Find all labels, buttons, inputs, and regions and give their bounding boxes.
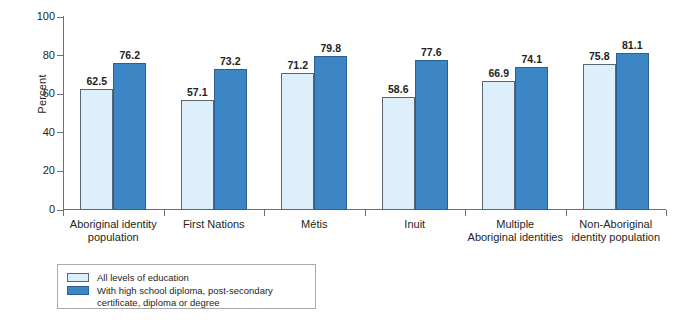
bar-value-label: 79.8 bbox=[304, 43, 358, 54]
bar bbox=[616, 53, 649, 210]
y-axis-tick-label: 0 bbox=[12, 204, 55, 215]
bar-chart-figure: Percent 020406080100 62.576.257.173.271.… bbox=[0, 0, 675, 323]
bar bbox=[482, 81, 515, 210]
legend-label: With high school diploma, post-secondary… bbox=[97, 285, 273, 308]
plot-area: 62.576.257.173.271.279.858.677.666.974.1… bbox=[63, 17, 666, 210]
x-axis-tick bbox=[465, 210, 466, 216]
y-axis-tick-label: 40 bbox=[12, 127, 55, 138]
y-axis-tick-label: 100 bbox=[12, 11, 55, 22]
chart-legend: All levels of education With high school… bbox=[57, 264, 316, 309]
bar-value-label: 73.2 bbox=[203, 56, 257, 67]
x-axis-tick bbox=[164, 210, 165, 216]
y-axis-tick-label: 20 bbox=[12, 165, 55, 176]
bar-value-label: 74.1 bbox=[505, 54, 559, 65]
x-axis-category-label: First Nations bbox=[156, 218, 273, 231]
x-axis-tick bbox=[264, 210, 265, 216]
y-axis-tick-label: 80 bbox=[12, 50, 55, 61]
bar bbox=[281, 73, 314, 210]
legend-item-with-diploma: With high school diploma, post-secondary… bbox=[67, 285, 273, 308]
legend-label: All levels of education bbox=[97, 272, 189, 284]
bar bbox=[314, 56, 347, 210]
bar-value-label: 81.1 bbox=[605, 40, 659, 51]
bar-value-label: 77.6 bbox=[404, 47, 458, 58]
x-axis-category-label: Non-Aboriginalidentity population bbox=[558, 218, 675, 244]
x-axis-category-label: Aboriginal identitypopulation bbox=[55, 218, 172, 244]
bar-value-label: 76.2 bbox=[103, 50, 157, 61]
x-axis-tick bbox=[365, 210, 366, 216]
legend-swatch-light bbox=[67, 273, 89, 282]
bar bbox=[382, 97, 415, 210]
y-axis-tick-label: 60 bbox=[12, 88, 55, 99]
bar bbox=[214, 69, 247, 210]
x-axis-category-label: Inuit bbox=[357, 218, 474, 231]
bar bbox=[515, 67, 548, 210]
x-axis-category-label: Métis bbox=[256, 218, 373, 231]
bar bbox=[583, 64, 616, 210]
x-axis-tick bbox=[666, 210, 667, 216]
legend-item-all-levels: All levels of education bbox=[67, 272, 189, 284]
x-axis-tick bbox=[566, 210, 567, 216]
x-axis-tick bbox=[63, 210, 64, 216]
legend-swatch-dark bbox=[67, 286, 89, 295]
bar bbox=[80, 89, 113, 210]
x-axis-category-label: MultipleAboriginal identities bbox=[457, 218, 574, 244]
bar bbox=[113, 63, 146, 210]
bar bbox=[415, 60, 448, 210]
bar bbox=[181, 100, 214, 210]
